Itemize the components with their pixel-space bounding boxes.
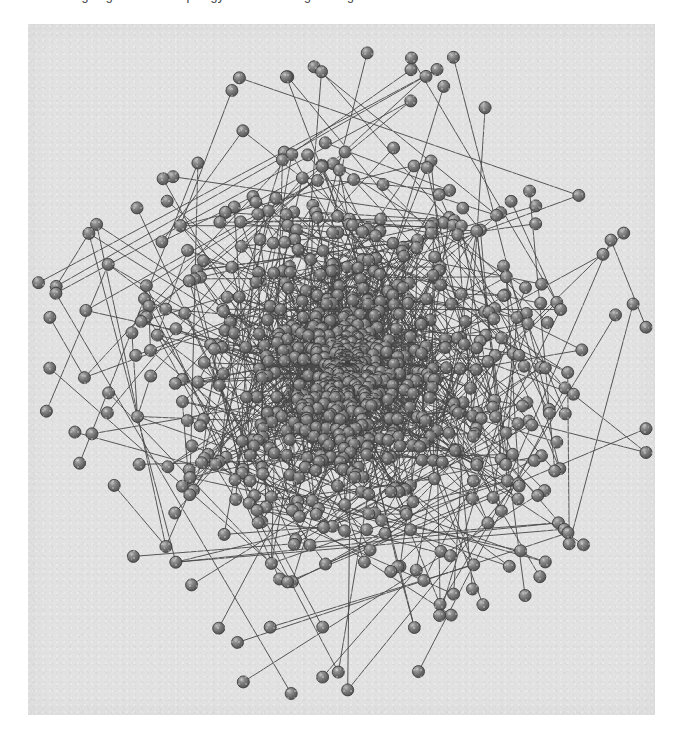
page-top-caption-strip: designing a network topology and evaluat…	[0, 0, 680, 14]
page-top-caption-text: designing a network topology and evaluat…	[58, 0, 354, 3]
network-graph-canvas	[28, 24, 655, 715]
network-figure-panel	[28, 24, 655, 715]
